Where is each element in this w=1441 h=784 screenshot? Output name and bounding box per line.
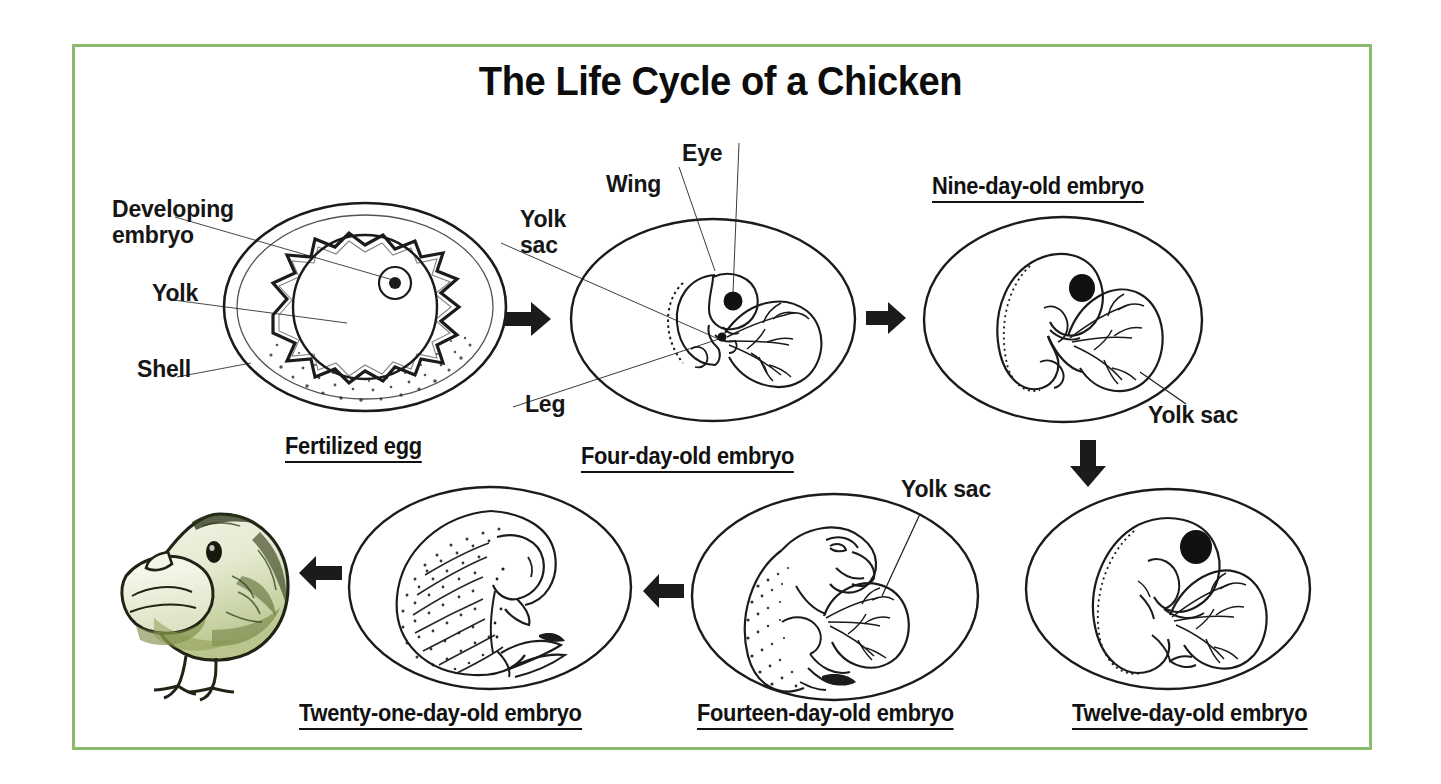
- figure-twentyone-day-old-embryo: [345, 483, 635, 695]
- arrow-fourteen-day-to-twentyone-day: [645, 572, 646, 573]
- label-yolk-sac-fourteen-day: Yolk sac: [901, 477, 991, 503]
- figure-four-day-old-embryo: [563, 215, 863, 427]
- page-title: The Life Cycle of a Chicken: [50, 58, 1390, 105]
- label-yolk-sac-line2: sac: [520, 232, 558, 258]
- caption-twentyone-day-old-embryo: Twenty-one-day-old embryo: [299, 700, 582, 730]
- label-leg: Leg: [525, 392, 565, 418]
- figure-nine-day-old-embryo: [918, 212, 1208, 427]
- label-yolk-sac-line1: Yolk: [520, 206, 566, 232]
- arrow-nine-day-to-twelve-day: [1068, 440, 1108, 488]
- figure-fourteen-day-old-embryo: [686, 490, 986, 705]
- label-yolk-sac-four-day: Yolk sac: [520, 207, 566, 259]
- label-developing-embryo-line2: embryo: [112, 222, 194, 248]
- label-wing: Wing: [606, 172, 661, 198]
- figure-twelve-day-old-embryo: [1020, 485, 1320, 695]
- caption-nine-day-old-embryo: Nine-day-old embryo: [932, 173, 1144, 203]
- caption-fertilized-egg: Fertilized egg: [285, 433, 422, 463]
- caption-twelve-day-old-embryo: Twelve-day-old embryo: [1072, 700, 1307, 730]
- caption-fourteen-day-old-embryo: Fourteen-day-old embryo: [697, 700, 954, 730]
- diagram-stage: The Life Cycle of a Chicken: [0, 0, 1441, 784]
- arrow-four-day-to-nine-day: [866, 300, 908, 336]
- arrow-twelve-day-to-fourteen-day: [642, 572, 684, 610]
- label-developing-embryo-line1: Developing: [112, 196, 234, 222]
- label-eye: Eye: [682, 141, 722, 167]
- label-developing-embryo: Developing embryo: [112, 197, 234, 249]
- arrow-egg-to-four-day: [505, 300, 553, 338]
- label-yolk-sac-nine-day: Yolk sac: [1148, 403, 1238, 429]
- figure-hatched-chick: [92, 480, 312, 700]
- label-yolk: Yolk: [152, 281, 198, 307]
- figure-fertilized-egg: [215, 195, 515, 430]
- caption-four-day-old-embryo: Four-day-old embryo: [581, 443, 794, 473]
- label-shell: Shell: [137, 357, 191, 383]
